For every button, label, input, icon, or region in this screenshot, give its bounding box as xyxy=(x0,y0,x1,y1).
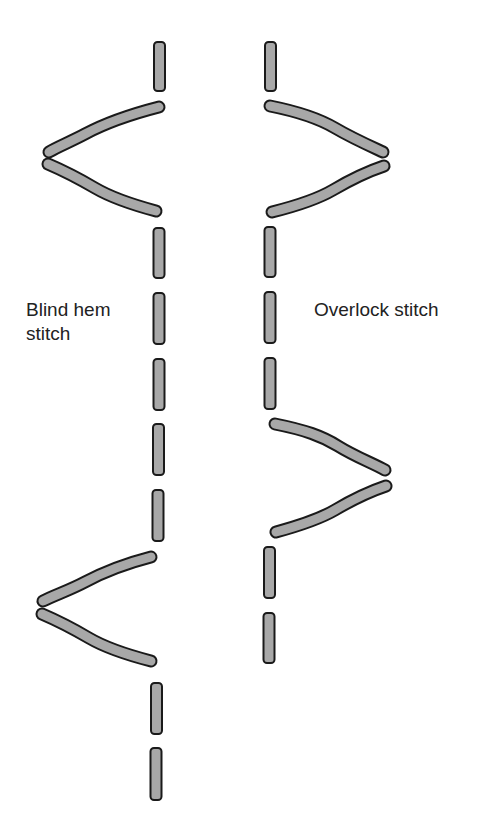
stitch-dash xyxy=(151,683,162,734)
stitch-zigzag xyxy=(43,557,151,601)
stitch-dash xyxy=(265,358,276,409)
stitch-dash xyxy=(154,293,165,344)
stitch-dash xyxy=(265,42,276,91)
stitch-dash xyxy=(154,228,165,278)
stitch-zigzag xyxy=(276,486,386,532)
stitch-dash xyxy=(153,424,164,475)
stitch-diagram xyxy=(0,0,501,832)
blind-hem-stitch-pattern xyxy=(42,42,165,800)
stitch-dash xyxy=(265,292,276,343)
stitch-dash xyxy=(264,547,275,598)
blind-hem-label-line1: Blind hem xyxy=(26,298,111,322)
overlock-stitch-pattern xyxy=(264,42,387,663)
stitch-dash xyxy=(264,613,275,663)
stitch-dash xyxy=(151,748,162,800)
stitch-zigzag xyxy=(48,164,156,211)
stitch-dash xyxy=(154,359,165,410)
overlock-stitch-label: Overlock stitch xyxy=(314,298,439,322)
stitch-zigzag xyxy=(42,614,151,661)
stitch-zigzag xyxy=(49,107,159,152)
stitch-dash xyxy=(153,490,164,541)
stitch-dash xyxy=(154,42,165,91)
blind-hem-stitch-label: Blind hem stitch xyxy=(26,298,111,346)
stitch-zigzag xyxy=(272,166,384,212)
blind-hem-label-line2: stitch xyxy=(26,322,111,346)
stitch-dash xyxy=(265,227,276,277)
